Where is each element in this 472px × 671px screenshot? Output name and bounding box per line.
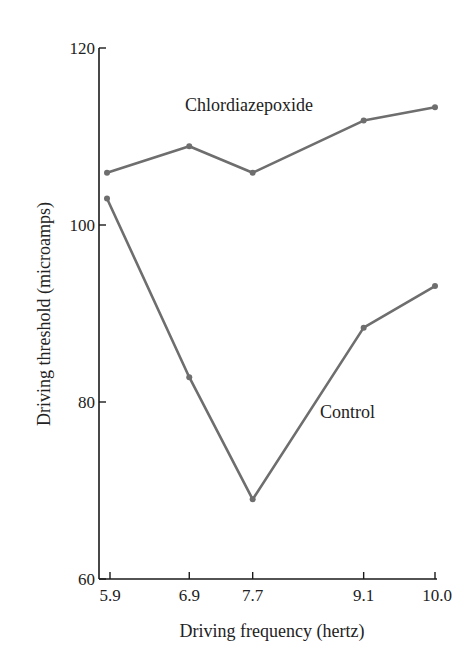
series-group — [104, 104, 438, 502]
x-tick-label: 9.1 — [353, 586, 374, 605]
series-line-control — [107, 198, 435, 499]
y-tick-label: 120 — [70, 39, 96, 58]
y-tick-label: 60 — [78, 570, 95, 589]
data-point — [432, 104, 438, 110]
data-point — [250, 496, 256, 502]
y-axis-title: Driving threshold (microamps) — [34, 202, 55, 426]
line-chart: 60801001205.96.97.79.110.0 Driving thres… — [0, 0, 472, 671]
x-tick-label: 5.9 — [99, 586, 120, 605]
data-point — [186, 374, 192, 380]
y-tick-label: 80 — [78, 393, 95, 412]
data-point — [104, 195, 110, 201]
series-label-control: Control — [320, 402, 375, 422]
x-tick-label: 6.9 — [179, 586, 200, 605]
data-point — [361, 118, 367, 124]
y-tick-label: 100 — [70, 216, 96, 235]
x-axis-title: Driving frequency (hertz) — [180, 621, 365, 642]
data-point — [186, 143, 192, 149]
series-label-chlordiazepoxide: Chlordiazepoxide — [185, 95, 313, 115]
x-tick-label: 7.7 — [242, 586, 264, 605]
data-point — [250, 170, 256, 176]
data-point — [104, 170, 110, 176]
data-point — [361, 325, 367, 331]
data-point — [432, 283, 438, 289]
axes: 60801001205.96.97.79.110.0 — [70, 39, 452, 605]
series-line-chlordiazepoxide — [107, 107, 435, 172]
x-tick-label: 10.0 — [422, 586, 452, 605]
